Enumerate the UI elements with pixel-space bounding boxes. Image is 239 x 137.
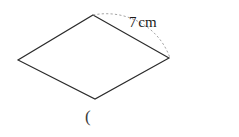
side-length-label: 7cm [129,14,157,30]
side-length-value: 7 [129,14,137,30]
side-length-unit: cm [138,14,157,30]
figure-screenshot: 7cm ( [0,0,239,137]
rhombus-figure [0,0,239,137]
stray-parenthesis: ( [85,108,91,126]
